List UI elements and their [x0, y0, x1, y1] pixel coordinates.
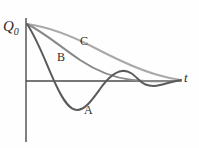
damped-oscillation-figure: Q0 t A B C	[0, 0, 199, 148]
curves-group	[27, 24, 181, 110]
y-axis-label-symbol: Q	[3, 18, 14, 34]
curve-label-b: B	[57, 51, 65, 63]
curve-a-underdamped	[27, 24, 181, 110]
y-axis-label: Q0	[3, 19, 19, 37]
axes-group	[26, 18, 181, 142]
curve-label-a: A	[84, 104, 93, 116]
plot-canvas	[0, 0, 199, 148]
curve-label-c: C	[80, 35, 88, 47]
x-axis-label: t	[184, 71, 188, 84]
y-axis-label-subscript: 0	[14, 26, 19, 37]
